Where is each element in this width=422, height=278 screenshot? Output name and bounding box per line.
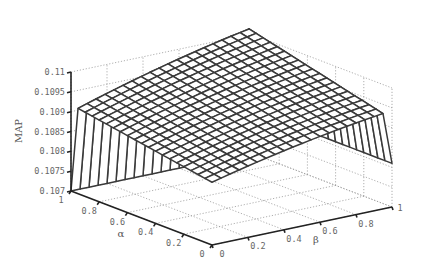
z-tick (67, 132, 71, 133)
beta-tick (392, 207, 393, 210)
alpha-tick (97, 202, 99, 205)
surface-mesh (71, 29, 392, 191)
beta-tick-label: 1 (397, 203, 402, 213)
alpha-tick-label: 0 (199, 249, 204, 259)
beta-tick (284, 230, 285, 233)
beta-tick-label: 0.4 (286, 234, 301, 244)
beta-tick (248, 237, 249, 240)
beta-tick-label: 0.2 (250, 241, 265, 251)
beta-tick (320, 222, 321, 225)
z-tick-label: 0.108 (39, 146, 65, 156)
beta-axis-label: β (313, 234, 319, 245)
grid-line (251, 153, 392, 207)
alpha-axis-label: α (118, 228, 125, 239)
z-tick-label: 0.1085 (34, 127, 65, 137)
grid-line (107, 183, 248, 237)
z-tick (67, 112, 71, 113)
z-tick (67, 92, 71, 93)
alpha-tick (154, 223, 156, 226)
alpha-tick (182, 234, 184, 237)
beta-tick (356, 215, 357, 218)
map-surface-plot: 0.1070.10750.1080.10850.1090.10950.1100.… (0, 0, 422, 278)
z-axis-label: MAP (13, 119, 24, 143)
alpha-tick-label: 0.4 (138, 227, 153, 237)
z-tick (67, 72, 71, 73)
z-tick-label: 0.11 (45, 67, 65, 77)
alpha-tick (125, 213, 127, 216)
alpha-tick-label: 0.8 (82, 206, 97, 216)
z-tick-label: 0.1075 (34, 166, 65, 176)
beta-tick-label: 0.6 (322, 226, 337, 236)
z-tick (67, 151, 71, 152)
z-tick (67, 171, 71, 172)
alpha-tick-label: 0.2 (166, 238, 181, 248)
beta-tick-label: 0.8 (358, 219, 373, 229)
z-tick-label: 0.1095 (34, 87, 65, 97)
beta-tick (212, 245, 213, 248)
alpha-tick-label: 1 (58, 195, 63, 205)
alpha-tick-label: 0.6 (110, 217, 125, 227)
beta-tick-label: 0 (219, 249, 224, 259)
z-tick-label: 0.109 (39, 107, 65, 117)
